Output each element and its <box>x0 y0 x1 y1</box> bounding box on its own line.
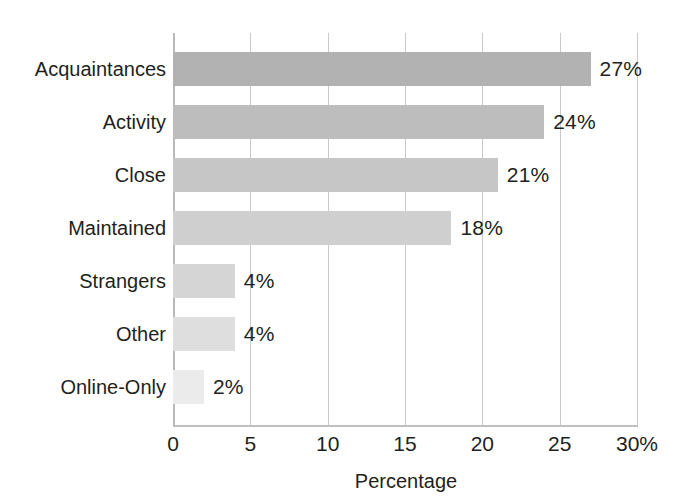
x-tick-label-20: 20 <box>471 432 494 456</box>
bar-row: 4% <box>173 317 637 351</box>
gridline-30 <box>637 33 638 425</box>
bar-value-label: 27% <box>600 57 643 81</box>
bar-row: 27% <box>173 52 637 86</box>
bar-acquaintances[interactable] <box>173 52 591 86</box>
bar-other[interactable] <box>173 317 235 351</box>
bar-value-label: 4% <box>244 322 275 346</box>
x-tick-label-15: 15 <box>393 432 416 456</box>
bar-strangers[interactable] <box>173 264 235 298</box>
bar-row: 21% <box>173 158 637 192</box>
bar-online-only[interactable] <box>173 370 204 404</box>
bar-value-label: 18% <box>460 216 503 240</box>
category-label-online-only: Online-Only <box>0 370 166 404</box>
category-axis-labels: AcquaintancesActivityCloseMaintainedStra… <box>0 33 166 425</box>
x-tick-label-25: 25 <box>548 432 571 456</box>
category-label-maintained: Maintained <box>0 211 166 245</box>
bar-activity[interactable] <box>173 105 544 139</box>
x-tick-label-30: 30% <box>616 432 658 456</box>
category-label-close: Close <box>0 158 166 192</box>
category-label-other: Other <box>0 317 166 351</box>
x-axis-tick-labels: 051015202530% <box>0 432 688 462</box>
x-tick-label-5: 5 <box>244 432 256 456</box>
bar-value-label: 4% <box>244 269 275 293</box>
bar-row: 2% <box>173 370 637 404</box>
bar-row: 24% <box>173 105 637 139</box>
bar-row: 18% <box>173 211 637 245</box>
plot-area: 27%24%21%18%4%4%2% <box>173 33 637 425</box>
x-tick-label-0: 0 <box>167 432 179 456</box>
category-label-activity: Activity <box>0 105 166 139</box>
bar-value-label: 21% <box>507 163 550 187</box>
bar-row: 4% <box>173 264 637 298</box>
x-axis-title-text: Percentage <box>355 470 457 492</box>
bar-value-label: 24% <box>553 110 596 134</box>
category-label-acquaintances: Acquaintances <box>0 52 166 86</box>
bar-chart: 27%24%21%18%4%4%2% AcquaintancesActivity… <box>0 0 688 503</box>
bar-close[interactable] <box>173 158 498 192</box>
bar-maintained[interactable] <box>173 211 451 245</box>
bar-value-label: 2% <box>213 375 244 399</box>
x-tick-label-10: 10 <box>316 432 339 456</box>
x-axis-line <box>173 425 638 427</box>
x-axis-title: Percentage <box>0 470 688 493</box>
category-label-strangers: Strangers <box>0 264 166 298</box>
